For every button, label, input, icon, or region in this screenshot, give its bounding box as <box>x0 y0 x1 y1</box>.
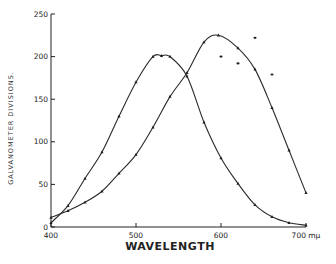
x-tick-label: 700 mμ <box>292 231 321 240</box>
x-tick-label: 500 <box>129 231 144 240</box>
y-tick-label: 150 <box>34 95 49 104</box>
y-tick-label: 100 <box>34 137 49 146</box>
y-tick-label: 250 <box>34 10 49 19</box>
series-3 <box>219 37 273 76</box>
spectral-chart: GALVANOMETER DIVISIONS. 050100150200250 … <box>0 0 336 264</box>
axes <box>51 14 306 227</box>
x-axis-title: WAVELENGTH <box>125 240 215 253</box>
x-ticks: 400500600700 mμ <box>44 223 321 240</box>
y-axis-title: GALVANOMETER DIVISIONS. <box>7 71 15 185</box>
scatter-point <box>270 73 273 75</box>
scatter-point <box>253 37 256 39</box>
y-tick-label: 200 <box>34 52 49 61</box>
data-series <box>49 34 307 227</box>
y-ticks: 050100150200250 <box>34 10 55 232</box>
scatter-point <box>236 62 239 64</box>
series-2 <box>49 34 307 219</box>
x-tick-label: 400 <box>44 231 59 240</box>
scatter-point <box>219 56 222 58</box>
x-tick-label: 600 <box>214 231 229 240</box>
svg-text:GALVANOMETER DIVISIONS.: GALVANOMETER DIVISIONS. <box>7 71 15 185</box>
series-line <box>51 35 306 218</box>
y-tick-label: 50 <box>38 180 48 189</box>
